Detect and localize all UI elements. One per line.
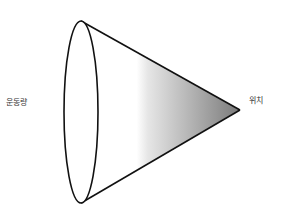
momentum-label: 운동량 — [6, 96, 27, 107]
cone-body — [81, 21, 240, 203]
position-label: 위치 — [249, 94, 263, 105]
cone-base-ellipse — [64, 21, 98, 203]
cone-diagram — [0, 0, 284, 219]
